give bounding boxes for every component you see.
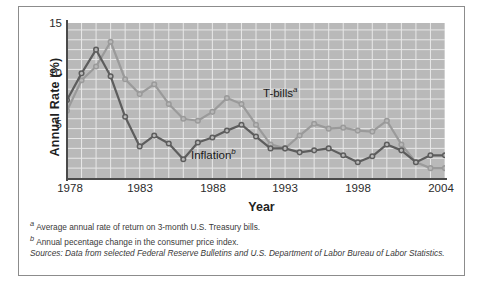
y-axis-title: Annual Rate (%) [48,47,62,167]
data-point [239,122,244,127]
series-label-tbills-text: T-bills [263,87,293,99]
y-axis-title-wrap: Annual Rate (%) [22,40,46,160]
y-tick-15: 15 [40,17,62,29]
data-point [312,148,317,153]
data-point [370,129,375,134]
series-label-tbills: T-billsa [263,85,297,99]
series-line-tbills [67,42,445,168]
data-point [283,146,288,151]
data-point [137,144,142,149]
data-series-layer [67,23,445,178]
data-point [94,47,99,52]
data-point [254,134,259,139]
data-point [385,142,390,147]
footnote-b-marker: b [30,234,34,243]
y-axis-line [66,20,68,181]
data-point [152,133,157,138]
data-point [355,128,360,133]
x-tick-1998: 1998 [345,182,371,194]
data-point [355,160,360,165]
x-tick-labels: 1978 1983 1988 1993 1998 2004 [0,182,483,200]
series-label-inflation-text: Inflation [191,149,231,161]
data-point [79,71,84,76]
data-point [196,118,201,123]
data-point [399,142,404,147]
data-point [268,146,273,151]
x-tick-1988: 1988 [200,182,226,194]
data-point [79,78,84,83]
data-point [123,77,128,82]
data-point [94,64,99,69]
footnote-a-text: Average annual rate of return on 3-month… [36,222,260,232]
footnote-a-marker: a [30,219,34,228]
data-point [181,157,186,162]
data-point [225,96,230,101]
data-point [414,160,419,165]
series-label-tbills-marker: a [293,85,297,94]
footnote-b-text: Annual pecentage change in the consumer … [36,237,239,247]
data-point [210,110,215,115]
x-tick-1983: 1983 [127,182,153,194]
data-point [297,133,302,138]
data-point [399,148,404,153]
data-point [181,116,186,121]
data-point [210,135,215,140]
data-point [108,39,113,44]
footnote-a: aAverage annual rate of return on 3-mont… [30,218,450,233]
data-point [225,128,230,133]
data-point [341,153,346,158]
data-point [166,141,171,146]
data-point [428,153,433,158]
data-point [196,140,201,145]
data-point [341,125,346,130]
footnote-b: bAnnual pecentage change in the consumer… [30,233,450,248]
data-point [443,153,445,158]
x-axis-title: Year [0,200,483,214]
series-label-inflation: Inflationb [191,147,236,161]
series-label-inflation-marker: b [231,147,235,156]
x-tick-1978: 1978 [57,182,83,194]
data-point [385,118,390,123]
data-point [123,114,128,119]
x-axis-line [66,178,447,180]
x-tick-1993: 1993 [272,182,298,194]
data-point [370,154,375,159]
data-point [254,122,259,127]
x-tick-2004: 2004 [428,182,454,194]
source-note: Sources: Data from selected Federal Rese… [30,248,460,258]
data-point [137,92,142,97]
plot-area: T-billsa Inflationb [67,23,445,178]
data-point [239,102,244,107]
data-point [108,74,113,79]
data-point [297,150,302,155]
data-point [443,166,445,171]
data-point [152,82,157,87]
footnotes: aAverage annual rate of return on 3-mont… [30,218,450,248]
data-point [428,166,433,171]
figure-container: T-billsa Inflationb 15 10 5 1978 1983 19… [0,0,483,292]
data-point [326,126,331,131]
data-point [312,121,317,126]
data-point [166,102,171,107]
data-point [326,146,331,151]
